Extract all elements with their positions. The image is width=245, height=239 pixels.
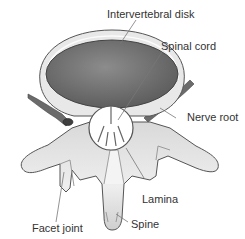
label-intervertebral-disk: Intervertebral disk: [107, 8, 194, 20]
spinal-canal: [89, 106, 133, 150]
label-spinal-cord: Spinal cord: [161, 40, 216, 52]
nucleus: [46, 40, 178, 108]
label-facet-joint: Facet joint: [32, 222, 83, 234]
label-nerve-root: Nerve root: [187, 111, 238, 123]
label-lamina: Lamina: [142, 193, 178, 205]
label-spine: Spine: [131, 218, 159, 230]
